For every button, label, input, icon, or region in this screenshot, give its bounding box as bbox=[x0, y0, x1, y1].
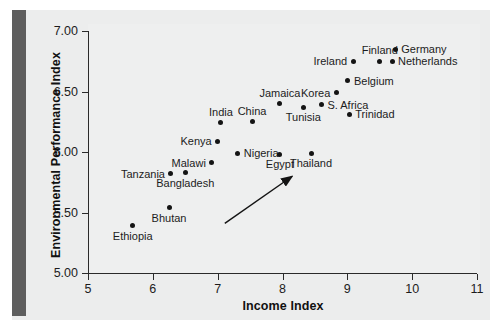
data-point-label: Ireland bbox=[314, 56, 348, 67]
data-point[interactable] bbox=[167, 205, 172, 210]
data-point-label: Nigeria bbox=[244, 148, 279, 159]
data-point[interactable] bbox=[377, 59, 382, 64]
data-point-label: Netherlands bbox=[398, 56, 457, 67]
data-point[interactable] bbox=[309, 151, 314, 156]
data-point-label: Germany bbox=[401, 44, 446, 55]
data-point[interactable] bbox=[351, 59, 356, 64]
data-point-label: Tunisia bbox=[286, 112, 321, 123]
data-point[interactable] bbox=[393, 47, 398, 52]
data-point[interactable] bbox=[250, 119, 255, 124]
data-point-label: Kenya bbox=[180, 136, 211, 147]
data-point-label: Bangladesh bbox=[156, 178, 214, 189]
data-point-label: Bhutan bbox=[152, 213, 187, 224]
data-point[interactable] bbox=[334, 90, 339, 95]
data-point-label: China bbox=[238, 106, 267, 117]
data-point-label: Ethiopia bbox=[113, 231, 153, 242]
data-point-label: India bbox=[209, 107, 233, 118]
data-point-label: Belgium bbox=[354, 75, 394, 86]
data-point-label: Thailand bbox=[290, 158, 332, 169]
data-point[interactable] bbox=[390, 59, 395, 64]
data-point-label: Trinidad bbox=[355, 109, 394, 120]
data-point[interactable] bbox=[347, 112, 352, 117]
scatter-plot-figure: 5.005.506.006.507.00 567891011 Environme… bbox=[0, 0, 504, 330]
data-point-label: Jamaica bbox=[259, 88, 300, 99]
data-point[interactable] bbox=[301, 105, 306, 110]
data-point-label: Malawi bbox=[172, 157, 206, 168]
data-point[interactable] bbox=[235, 151, 240, 156]
data-point-label: Korea bbox=[301, 87, 330, 98]
data-point[interactable] bbox=[183, 170, 188, 175]
data-point[interactable] bbox=[215, 139, 220, 144]
